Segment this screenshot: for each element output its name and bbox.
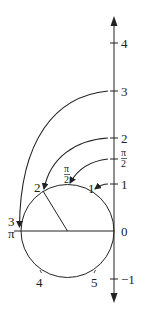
svg-text:2: 2	[64, 174, 69, 185]
circle-label-4: 4	[36, 275, 43, 290]
tick-label-1: 1	[121, 177, 128, 192]
arrow-half-pi	[70, 159, 108, 183]
axis-arrow-up-icon	[111, 16, 118, 26]
svg-text:π: π	[64, 163, 69, 174]
svg-text:π: π	[121, 147, 126, 158]
tick-label-0: 0	[121, 224, 128, 239]
axis-arrow-down-icon	[111, 293, 118, 303]
svg-text:2: 2	[121, 158, 126, 169]
circle-label-2: 2	[34, 180, 41, 195]
circle-label-pi: π	[8, 226, 15, 241]
radius-line	[43, 191, 68, 231]
tick-label-2: 2	[121, 131, 128, 146]
arrow-3	[20, 91, 109, 227]
polar-mapping-diagram: 4 3 2 π 2 1 0 −1 1 π 2 2 3 π 4 5	[0, 0, 145, 320]
vertical-axis	[110, 16, 118, 303]
circle-label-half-pi: π 2	[64, 163, 70, 185]
arrow-1	[95, 184, 108, 189]
tick-label-half-pi: π 2	[121, 147, 127, 169]
circle-label-5: 5	[91, 275, 98, 290]
tick-label-neg1: −1	[121, 272, 135, 287]
arrow-2	[44, 138, 108, 189]
circle-label-1: 1	[88, 181, 95, 196]
tick-label-3: 3	[121, 84, 128, 99]
tick-label-4: 4	[121, 36, 128, 51]
